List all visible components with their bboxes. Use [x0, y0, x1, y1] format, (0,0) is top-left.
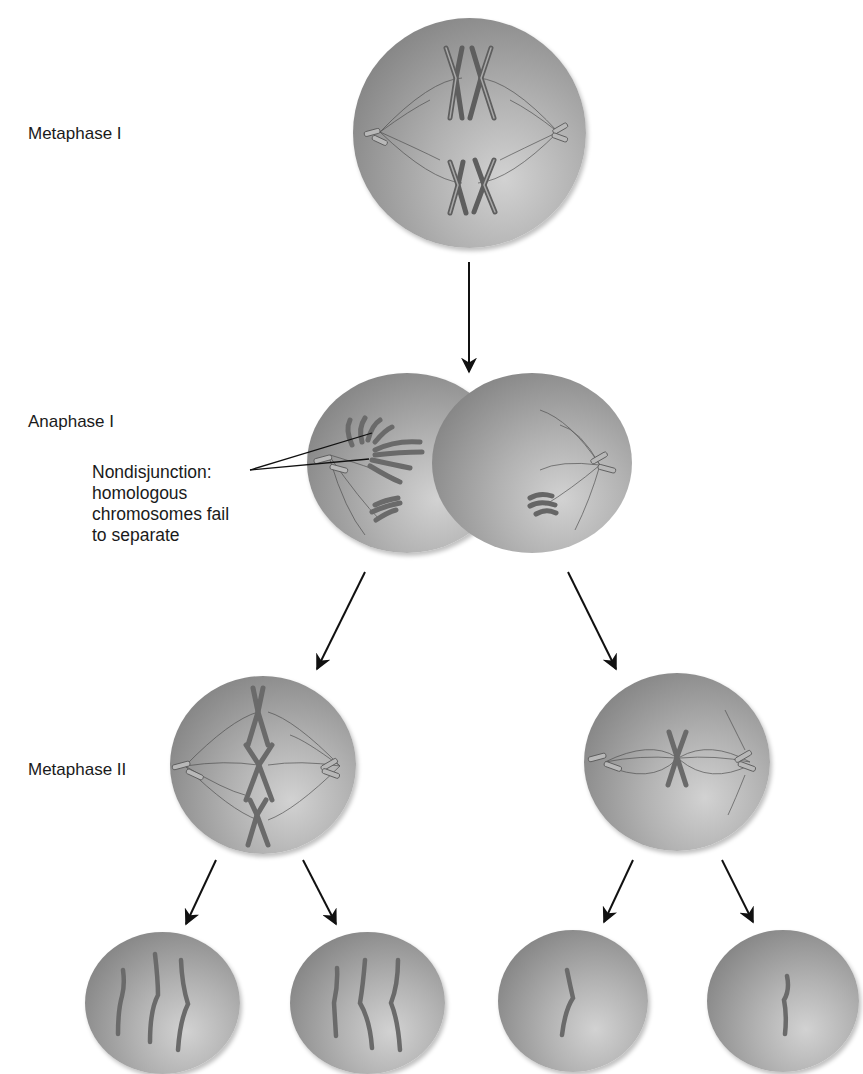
- annotation-leader-lines: [250, 433, 372, 470]
- chromosomes-anaphase-1-left-pair: [372, 498, 400, 520]
- centrioles-anaphase-1: [313, 451, 616, 473]
- arrow-ana1-to-meta2-left: [317, 572, 365, 669]
- chromosomes-anaphase-1-nondisjunction: [348, 418, 422, 482]
- spindle-metaphase-1: [380, 78, 558, 183]
- chromosomes-gamete-center-left: [334, 960, 400, 1050]
- chromosome-gamete-center-right: [562, 970, 573, 1035]
- chromosomes-metaphase-1: [446, 48, 495, 213]
- arrow-meta2-right-to-gamete-3: [604, 860, 633, 922]
- chromosome-gamete-far-right: [784, 976, 788, 1034]
- arrow-meta2-left-to-gamete-1: [186, 860, 216, 924]
- centrioles-metaphase-1: [364, 122, 569, 146]
- chromosome-metaphase-2-right: [668, 732, 686, 785]
- arrow-meta2-right-to-gamete-4: [722, 860, 753, 922]
- chromosomes-gamete-far-left: [118, 954, 188, 1050]
- chromosomes-anaphase-1-right-pair: [530, 494, 556, 514]
- chromosomes-metaphase-2-left: [246, 688, 272, 845]
- arrow-ana1-to-meta2-right: [568, 572, 616, 669]
- arrow-meta2-left-to-gamete-2: [303, 860, 336, 924]
